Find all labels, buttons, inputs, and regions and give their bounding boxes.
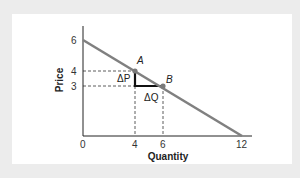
y-axis-title: Price <box>54 67 65 92</box>
point-b-label: B <box>166 74 173 85</box>
point-b-marker <box>160 83 165 88</box>
x-axis-title: Quantity <box>148 151 189 162</box>
delta-q-label: ΔQ <box>144 92 159 103</box>
x-tick-6: 6 <box>160 139 166 150</box>
delta-p-label: ΔP <box>117 73 131 84</box>
point-a-marker <box>132 68 137 73</box>
x-tick-0: 0 <box>80 139 86 150</box>
x-tick-4: 4 <box>132 139 138 150</box>
demand-chart: A B ΔP ΔQ 6 4 3 0 4 6 12 Quantity Price <box>0 0 300 178</box>
point-a-label: A <box>136 55 144 66</box>
y-tick-6: 6 <box>71 35 77 46</box>
y-tick-3: 3 <box>71 81 77 92</box>
x-tick-12: 12 <box>236 139 248 150</box>
y-tick-4: 4 <box>71 66 77 77</box>
